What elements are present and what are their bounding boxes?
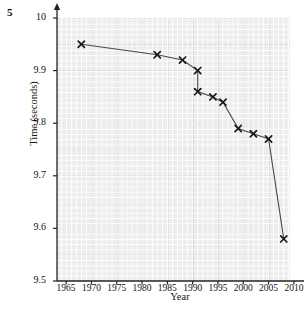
x-tick-label: 2005 xyxy=(259,283,278,293)
x-tick-label: 2010 xyxy=(284,283,303,293)
x-tick-label: 1980 xyxy=(133,283,152,293)
x-tick-label: 1970 xyxy=(82,283,101,293)
axis-lines xyxy=(0,0,304,311)
x-tick-label: 1985 xyxy=(158,283,177,293)
x-tick-label: 1965 xyxy=(57,283,76,293)
x-tick-label: 1990 xyxy=(183,283,202,293)
x-tick-label: 1995 xyxy=(208,283,227,293)
x-tick-label: 1975 xyxy=(107,283,126,293)
chart-figure: 5 Time (seconds) Year 9.59.69.79.89.910 … xyxy=(0,0,304,311)
x-tick-label: 2000 xyxy=(234,283,253,293)
